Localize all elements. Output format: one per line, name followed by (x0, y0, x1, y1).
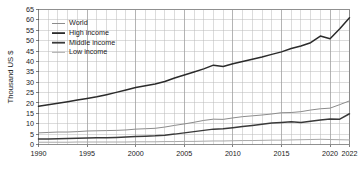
y-tick-label: 15 (26, 109, 34, 118)
chart-legend: WorldHigh incomeMiddle incomeLow income (52, 18, 115, 56)
legend-label: High income (69, 28, 109, 37)
y-tick-label: 40 (26, 57, 34, 66)
y-tick-label: 65 (26, 5, 34, 14)
y-axis-title: Thousand US $ (6, 50, 15, 104)
y-tick-label: 55 (26, 26, 34, 35)
y-axis-ticks: 05101520253035404550556065 (26, 5, 39, 149)
legend-label: Middle income (69, 38, 115, 47)
x-tick-label: 2005 (176, 149, 192, 158)
y-tick-label: 35 (26, 67, 34, 76)
line-chart: 05101520253035404550556065 1990199520002… (0, 0, 359, 169)
x-tick-label: 2015 (273, 149, 289, 158)
x-tick-label: 2000 (128, 149, 144, 158)
x-axis-ticks: 19901995200020052010201520202022 (31, 145, 358, 158)
y-tick-label: 25 (26, 88, 34, 97)
y-tick-label: 20 (26, 99, 34, 108)
x-tick-label: 2022 (342, 149, 358, 158)
y-tick-label: 45 (26, 47, 34, 56)
legend-label: Low income (69, 47, 107, 56)
x-tick-label: 1990 (31, 149, 47, 158)
y-tick-label: 30 (26, 78, 34, 87)
y-tick-label: 5 (30, 130, 34, 139)
x-tick-label: 2020 (322, 149, 338, 158)
y-tick-label: 50 (26, 36, 34, 45)
x-tick-label: 1995 (79, 149, 95, 158)
x-tick-label: 2010 (225, 149, 241, 158)
y-tick-label: 60 (26, 15, 34, 24)
y-tick-label: 10 (26, 119, 34, 128)
chart-canvas: 05101520253035404550556065 1990199520002… (0, 0, 359, 169)
legend-label: World (69, 18, 88, 27)
